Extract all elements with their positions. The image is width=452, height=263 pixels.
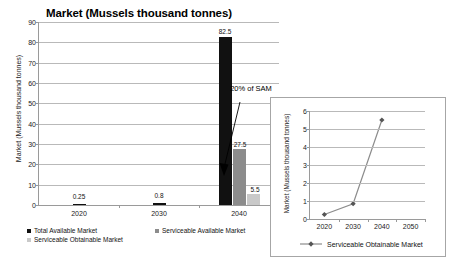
main-bar-chart: Market (Mussels thousand tonnes) Market …	[0, 0, 282, 250]
main-y-tick-label: 50	[28, 100, 36, 107]
main-y-tick-mark	[36, 205, 39, 206]
main-chart-legend: Total Available Market Serviceable Avail…	[27, 227, 277, 245]
main-gridline	[39, 42, 279, 43]
main-bar	[219, 37, 232, 205]
main-y-tick-label: 70	[28, 59, 36, 66]
inset-legend-line-marker-icon	[299, 240, 323, 248]
legend-item-tam[interactable]: Total Available Market	[27, 227, 97, 234]
main-x-tick-label: 2040	[231, 210, 247, 217]
main-bar-data-label: 0.8	[154, 192, 163, 199]
inset-y-tick-mark	[307, 147, 310, 148]
inset-x-tick-label: 2020	[317, 223, 333, 230]
legend-label-tam: Total Available Market	[34, 227, 97, 234]
inset-plot-area: 01234562020203020402050	[309, 111, 425, 220]
inset-y-tick-label: 1	[303, 198, 307, 205]
inset-x-tick-label: 2030	[345, 223, 361, 230]
main-bar	[73, 204, 86, 205]
legend-row-2: Serviceable Obtainable Market	[27, 236, 277, 245]
main-gridline	[39, 103, 279, 104]
legend-swatch-sam	[155, 229, 159, 233]
inset-chart-y-axis-title: Market (Mussels thousand tonnes)	[283, 99, 290, 229]
main-gridline	[39, 124, 279, 125]
inset-y-tick-label: 0	[303, 216, 307, 223]
main-bar-data-label: 82.5	[219, 28, 232, 35]
inset-gridline	[310, 201, 425, 202]
annotation-20-percent-of-sam: 20% of SAM	[228, 84, 274, 94]
legend-label-sam: Serviceable Available Market	[162, 227, 245, 234]
main-bar	[247, 194, 260, 205]
inset-gridline	[310, 129, 425, 130]
inset-y-tick-mark	[307, 219, 310, 220]
main-y-tick-label: 10	[28, 181, 36, 188]
inset-gridline	[310, 147, 425, 148]
main-y-tick-label: 0	[32, 202, 36, 209]
inset-legend-label: Serviceable Obtainable Market	[327, 241, 423, 248]
main-y-tick-mark	[36, 144, 39, 145]
main-y-tick-label: 30	[28, 141, 36, 148]
legend-row-1: Total Available Market Serviceable Avail…	[27, 227, 277, 236]
legend-label-som: Serviceable Obtainable Market	[34, 236, 123, 243]
inset-y-tick-label: 5	[303, 126, 307, 133]
main-x-tick-label: 2020	[71, 210, 87, 217]
main-bar	[233, 149, 246, 205]
inset-y-tick-mark	[307, 201, 310, 202]
main-chart-y-axis-title: Market (Mussels thousand tonnes)	[15, 29, 22, 189]
inset-gridline	[310, 111, 425, 112]
main-y-tick-label: 40	[28, 120, 36, 127]
main-y-tick-mark	[36, 42, 39, 43]
main-y-tick-mark	[36, 185, 39, 186]
legend-item-som[interactable]: Serviceable Obtainable Market	[27, 236, 123, 243]
main-gridline	[39, 63, 279, 64]
legend-item-sam[interactable]: Serviceable Available Market	[155, 227, 245, 234]
main-y-tick-mark	[36, 103, 39, 104]
main-plot-area: 01020304050607080902020203020400.250.882…	[38, 22, 279, 206]
inset-gridline	[310, 183, 425, 184]
main-y-tick-mark	[36, 22, 39, 23]
inset-y-tick-label: 6	[303, 108, 307, 115]
main-y-tick-label: 20	[28, 161, 36, 168]
inset-x-tick-mark	[368, 219, 369, 222]
inset-x-tick-mark	[396, 219, 397, 222]
main-bar	[153, 203, 166, 205]
main-x-tick-mark	[119, 205, 120, 208]
main-y-tick-mark	[36, 83, 39, 84]
main-bar-data-label: 5.5	[250, 186, 259, 193]
inset-y-tick-mark	[307, 183, 310, 184]
main-y-tick-mark	[36, 124, 39, 125]
main-bar-data-label: 0.25	[73, 193, 86, 200]
inset-x-tick-label: 2040	[374, 223, 390, 230]
main-chart-title: Market (Mussels thousand tonnes)	[46, 7, 246, 19]
inset-y-tick-label: 2	[303, 180, 307, 187]
main-x-tick-mark	[199, 205, 200, 208]
inset-y-tick-mark	[307, 111, 310, 112]
legend-swatch-som	[27, 238, 31, 242]
inset-x-tick-mark	[425, 219, 426, 222]
main-bar-data-label: 27.5	[234, 141, 247, 148]
inset-y-tick-mark	[307, 165, 310, 166]
figure-root: Market (Mussels thousand tonnes) Market …	[0, 0, 452, 263]
inset-y-tick-mark	[307, 129, 310, 130]
main-gridline	[39, 22, 279, 23]
inset-y-tick-label: 4	[303, 144, 307, 151]
inset-chart-legend[interactable]: Serviceable Obtainable Market	[299, 240, 423, 248]
inset-gridline	[310, 165, 425, 166]
main-y-tick-mark	[36, 164, 39, 165]
inset-data-point-marker	[322, 212, 327, 217]
inset-data-point-marker	[379, 117, 384, 122]
legend-swatch-tam	[27, 229, 31, 233]
inset-x-tick-label: 2050	[403, 223, 419, 230]
main-y-tick-label: 80	[28, 39, 36, 46]
inset-line-chart-panel: Market (Mussels thousand tonnes) 0123456…	[270, 97, 446, 257]
inset-x-tick-mark	[339, 219, 340, 222]
main-y-tick-label: 60	[28, 80, 36, 87]
inset-y-tick-label: 3	[303, 162, 307, 169]
main-x-tick-label: 2030	[151, 210, 167, 217]
main-y-tick-mark	[36, 63, 39, 64]
main-y-tick-label: 90	[28, 19, 36, 26]
